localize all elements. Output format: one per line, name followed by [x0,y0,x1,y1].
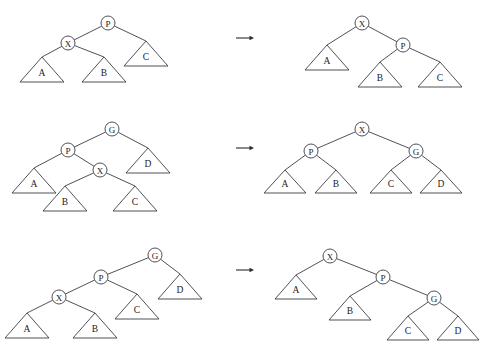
tree-edge-X-B [65,173,94,186]
subtree-label-D: D [177,285,184,295]
row-2-after-tree: ABCDXPG [264,122,462,193]
subtree-label-C: C [134,305,140,315]
tree-edge-P-A [285,155,305,170]
tree-edge-X-C [106,173,135,186]
tree-node-X: X [52,290,66,304]
arrow-head-icon [250,146,255,150]
subtree-B: B [315,170,357,193]
node-label-P: P [308,147,313,157]
tree-node-X: X [355,16,369,30]
tree-edge-P-B [350,280,377,296]
subtree-label-B: B [101,68,107,78]
subtree-D: D [158,274,202,299]
node-label-G: G [152,251,159,261]
tree-node-X: X [355,122,369,136]
row-2-double-rotation-left-right-arrow [236,146,254,150]
tree-edge-P-B [317,155,336,170]
row-2-before-tree: ABCDGPX [12,122,170,211]
row-3-double-rotation-left-left: ABCDGPXABCDXPG [5,248,479,340]
node-label-G: G [109,125,116,135]
subtree-label-B: B [377,73,383,83]
subtree-label-C: C [143,52,149,62]
node-label-X: X [359,19,366,29]
tree-node-P: P [94,270,108,284]
tree-edge-X-A [327,27,356,45]
tree-node-P: P [101,16,115,30]
subtree-B: B [73,313,117,338]
tree-node-G: G [148,248,162,262]
subtree-D: D [126,148,170,173]
node-label-X: X [327,252,334,262]
row-1-single-rotation: ABCPXABCXP [20,16,462,87]
tree-edge-X-A [42,46,62,57]
tree-edge-X-P [337,259,383,277]
tree-edge-X-G [368,132,416,151]
tree-edge-P-A [34,153,62,168]
subtree-label-B: B [92,324,98,334]
tree-rotation-figure: ABCPXABCXPABCDGPXABCDXPGABCDGPXABCDXPG [0,0,485,348]
subtree-C: C [115,294,159,319]
subtree-label-A: A [324,56,331,66]
tree-node-P: P [376,270,390,284]
node-label-X: X [65,39,72,49]
subtree-C: C [387,316,429,340]
row-1-after-tree: ABCXP [305,16,462,87]
subtree-A: A [12,168,56,193]
subtree-B: B [82,57,126,82]
tree-node-P: P [396,38,410,52]
subtree-C: C [370,170,412,193]
tree-edge-P-C [409,48,440,62]
tree-diagram-canvas: ABCPXABCXPABCDGPXABCDXPGABCDGPXABCDXPG [0,0,485,348]
subtree-label-D: D [145,159,152,169]
tree-edge-G-D [440,302,458,316]
row-2-double-rotation-left-right: ABCDGPXABCDXPG [12,122,462,211]
tree-node-X: X [61,36,75,50]
row-3-before-tree: ABCDGPX [5,248,202,338]
subtree-C: C [124,41,168,66]
node-label-P: P [380,273,385,283]
node-label-P: P [98,273,103,283]
node-label-X: X [359,125,366,135]
arrow-head-icon [250,36,255,40]
tree-edge-G-D [161,259,180,274]
subtree-B: B [329,296,371,320]
tree-edge-P-B [380,49,397,62]
arrow-head-icon [250,268,255,272]
node-label-X: X [56,293,63,303]
row-1-before-tree: ABCPX [20,16,168,82]
row-3-after-tree: ABCDXPG [275,249,479,340]
node-label-X: X [97,166,104,176]
subtree-label-B: B [347,306,353,316]
tree-node-G: G [105,122,119,136]
tree-node-P: P [304,144,318,158]
tree-edge-P-C [107,280,137,294]
subtree-label-B: B [62,197,68,207]
subtree-D: D [437,316,479,340]
tree-node-G: G [409,144,423,158]
tree-edge-X-A [296,259,324,275]
node-label-P: P [65,146,70,156]
subtree-label-A: A [39,68,46,78]
tree-edge-P-C [114,26,146,41]
subtree-A: A [305,45,349,70]
subtree-label-C: C [388,179,394,189]
row-3-double-rotation-left-left-arrow [236,268,254,272]
subtree-label-C: C [405,326,411,336]
subtree-D: D [420,170,462,193]
tree-edge-G-C [408,302,428,316]
subtree-label-A: A [282,179,289,189]
node-label-P: P [400,41,405,51]
tree-node-G: G [427,291,441,305]
tree-edge-G-P [101,258,149,277]
tree-node-P: P [61,143,75,157]
tree-node-X: X [323,249,337,263]
subtree-A: A [275,275,317,299]
tree-node-X: X [93,163,107,177]
subtree-label-A: A [24,324,31,334]
subtree-label-C: C [132,197,138,207]
subtree-label-C: C [437,73,443,83]
tree-edge-G-D [118,132,148,148]
tree-edge-X-B [65,300,95,313]
subtree-C: C [113,186,157,211]
tree-edge-G-C [391,155,410,170]
